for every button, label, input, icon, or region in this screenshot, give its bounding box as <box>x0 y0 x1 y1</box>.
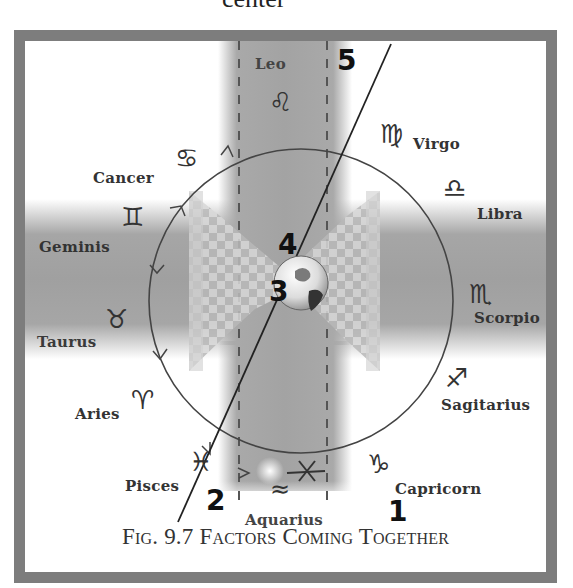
top-text-fragment: center <box>222 0 286 14</box>
marker-5: 5 <box>337 47 356 75</box>
zodiac-label-geminis: Geminis <box>39 238 110 256</box>
zodiac-label-sagitarius: Sagitarius <box>441 396 530 414</box>
figure-frame: Leo ♌ ♍ Virgo ♎ Libra ♏ Scorpio ♐ Sagita… <box>14 30 557 583</box>
zodiac-label-leo: Leo <box>255 55 286 73</box>
zodiac-label-libra: Libra <box>477 205 523 223</box>
zodiac-label-pisces: Pisces <box>125 477 179 495</box>
marker-3: 3 <box>269 278 288 306</box>
libra-icon: ♎ <box>443 175 466 201</box>
marker-1: 1 <box>388 498 407 526</box>
zodiac-label-cancer: Cancer <box>93 169 154 187</box>
pisces-icon: ♓ <box>189 449 212 475</box>
virgo-icon: ♍ <box>380 121 403 147</box>
aries-icon: ♈ <box>131 387 154 413</box>
zodiac-label-scorpio: Scorpio <box>474 309 540 327</box>
marker-4: 4 <box>278 231 297 259</box>
zodiac-label-taurus: Taurus <box>37 333 96 351</box>
leo-icon: ♌ <box>269 89 292 115</box>
taurus-icon: ♉ <box>105 306 128 332</box>
zodiac-label-aries: Aries <box>75 405 120 423</box>
figure-caption: Fig. 9.7 Factors Coming Together <box>25 524 546 550</box>
sagittarius-icon: ♐ <box>445 365 468 391</box>
zodiac-label-capricorn: Capricorn <box>395 480 481 498</box>
cross-marker-icon <box>287 461 325 481</box>
gemini-icon: ♊ <box>121 204 144 230</box>
diagram-stage: Leo ♌ ♍ Virgo ♎ Libra ♏ Scorpio ♐ Sagita… <box>25 41 546 572</box>
scorpio-icon: ♏ <box>469 281 492 307</box>
zodiac-label-virgo: Virgo <box>413 135 460 153</box>
aquarius-icon: ≈ <box>270 477 290 501</box>
cancer-icon: ♋ <box>175 145 198 171</box>
marker-2: 2 <box>206 487 225 515</box>
capricorn-icon: ♑ <box>367 451 390 477</box>
